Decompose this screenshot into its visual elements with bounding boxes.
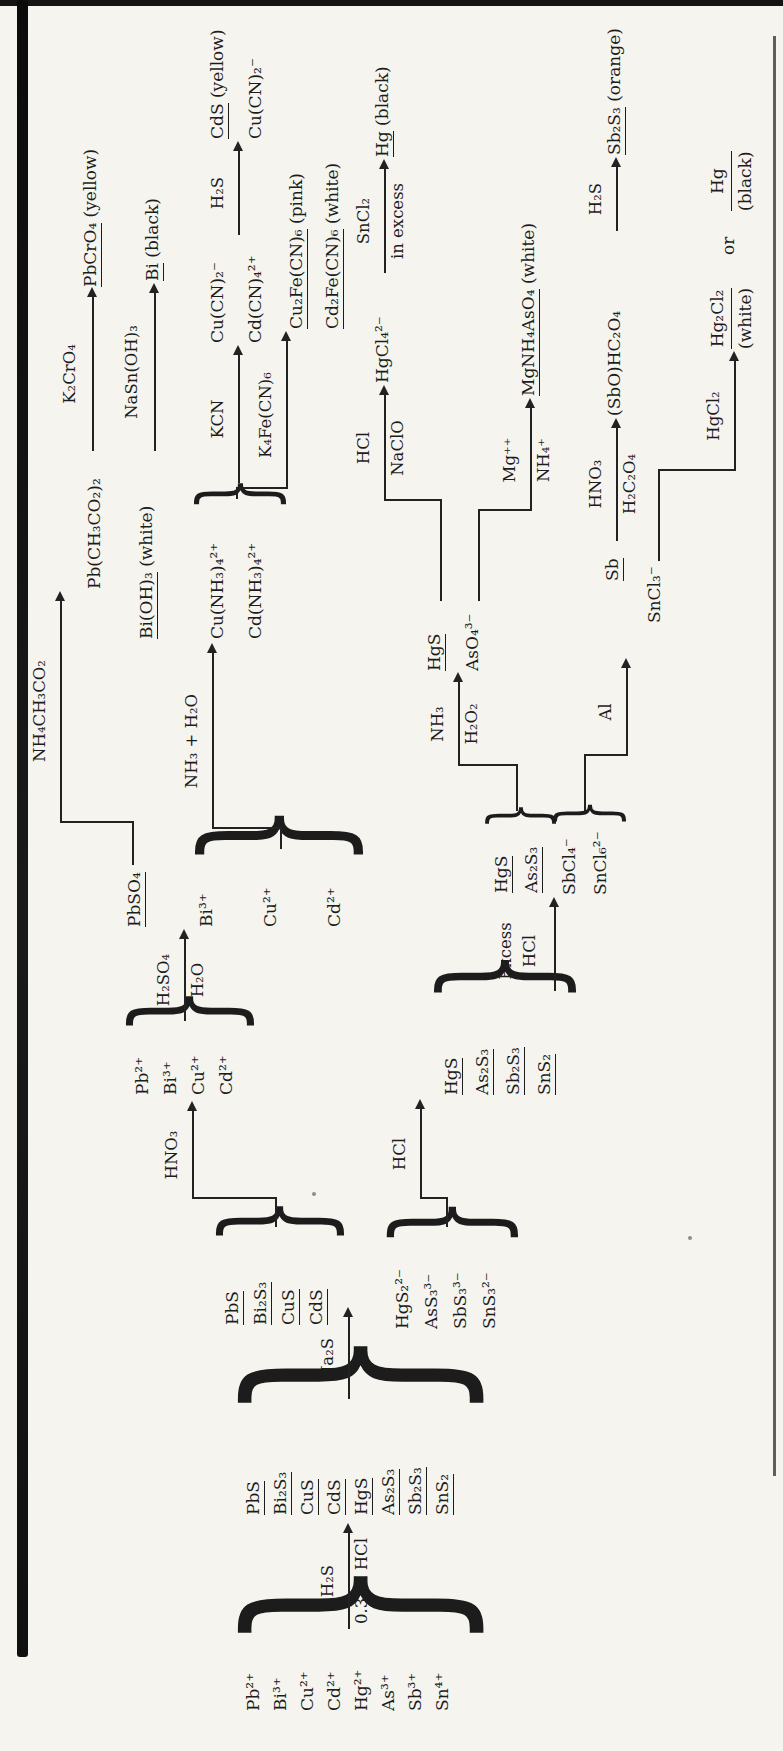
scanned-page: Pb²⁺ Bi³⁺ Cu²⁺ Cd²⁺ Hg²⁺ As³⁺ Sb³⁺ Sn⁴⁺ … xyxy=(0,0,783,1751)
node-hg2cl2: Hg₂Cl₂ (white) xyxy=(704,288,758,349)
formula: As³⁺ xyxy=(375,1670,402,1712)
connector xyxy=(446,1199,448,1227)
formula: HgS xyxy=(491,856,513,893)
stack-ammine: Cu(NH₃)₄²⁺ Cd(NH₃)₄²⁺ xyxy=(198,543,274,639)
arrow-nh3h2o2-label-below: H₂O₂ xyxy=(462,703,481,744)
color-note: (white) xyxy=(136,506,156,567)
arrow-hclnaclo-label-below: NaClO xyxy=(388,420,407,476)
arrow-mg-head xyxy=(525,398,535,408)
node-pbcro4: PbCrO₄ (yellow) xyxy=(80,149,100,287)
arrow-nh3h2o2-label-above: NH₃ xyxy=(428,706,447,741)
arrow-al-head xyxy=(621,658,631,668)
color-note: (yellow) xyxy=(80,149,100,218)
color-note: (yellow) xyxy=(207,29,227,98)
arrow-hcl-line xyxy=(420,1109,422,1199)
formula: Bi₂S₃ xyxy=(270,1472,292,1515)
connector xyxy=(280,829,282,849)
arrow-nh3h2o2-head xyxy=(453,672,463,682)
formula: Sb xyxy=(602,558,624,581)
color-note: (black) xyxy=(372,66,392,126)
arrow-hclnaclo-label-above: HCl xyxy=(354,432,373,464)
formula: Sb₂S₃ xyxy=(604,107,626,155)
arrow-kcn-line xyxy=(238,355,240,483)
arrow-hclnaclo-line xyxy=(384,395,386,501)
arrow-hcl-label: HCl xyxy=(390,1138,409,1170)
formula: Cu(CN)₂⁻ xyxy=(198,255,236,343)
arrow-nh4ac-line xyxy=(60,601,62,823)
arrow-hcl-head xyxy=(415,1099,425,1109)
formula: SnS₂ xyxy=(432,1474,454,1515)
formula: Bi³⁺ xyxy=(267,1670,294,1712)
stack-cds-result: CdS (yellow) Cu(CN)₂⁻ xyxy=(198,29,274,139)
arrow-excess-hcl-label-1: Excess xyxy=(496,922,515,979)
arrow-nh3h2o2-line xyxy=(458,682,460,766)
or-label: or xyxy=(718,237,738,255)
arrow-al-line xyxy=(626,668,628,756)
arrow-hno3-line xyxy=(192,1111,194,1199)
arrow-h2so4-head xyxy=(179,929,189,939)
connector xyxy=(420,1197,448,1199)
node-sncl3: SnCl₃⁻ xyxy=(644,566,664,623)
formula: Cd²⁺ xyxy=(321,1670,348,1712)
node-pbso4: PbSO₄ xyxy=(124,872,144,927)
formula: SnS₃²⁻ xyxy=(475,1269,504,1329)
formula: Bi(OH)₃ xyxy=(136,572,158,639)
formula: Bi₂S₃ xyxy=(250,1282,272,1325)
node-hgs: HgS xyxy=(424,634,444,671)
arrow-excess-hcl-head xyxy=(549,897,559,907)
formula: Sb₂S₃ xyxy=(405,1467,427,1515)
arrow-hclnaclo-head xyxy=(379,385,389,395)
formula: SnS₂ xyxy=(534,1054,556,1095)
connector xyxy=(132,823,134,865)
formula: CuS xyxy=(278,1289,300,1325)
formula: CdS xyxy=(306,1289,328,1325)
brace: } xyxy=(554,799,618,827)
formula: Cu₂Fe(CN)₆ xyxy=(286,229,308,329)
formula: HgS xyxy=(441,1058,463,1095)
connector xyxy=(275,1199,277,1227)
arrow-sncl2-head xyxy=(379,159,389,169)
connector xyxy=(516,766,518,811)
arrow-stannite-line xyxy=(154,293,156,451)
formula: Bi xyxy=(142,263,164,281)
formula: PbCrO₄ xyxy=(80,223,102,287)
connector xyxy=(584,756,586,811)
formula: As₂S₃ xyxy=(521,847,543,893)
formula: Hg₂Cl₂ xyxy=(704,288,732,349)
connector xyxy=(236,489,238,499)
arrow-mg-label-below: NH₄⁺ xyxy=(534,438,553,482)
node-pb-acetate: Pb(CH₃CO₂)₂ xyxy=(84,478,104,589)
formula: Hg²⁺ xyxy=(348,1670,375,1712)
stack-thio-ions: HgS₂²⁻ AsS₃³⁻ SbS₃³⁻ SnS₃²⁻ xyxy=(388,1269,504,1329)
arrow-h2so4-label-above: H₂SO₄ xyxy=(154,954,173,1006)
arrow-na2s-line xyxy=(348,1317,350,1399)
arrow-h2so4-line xyxy=(184,939,186,1021)
formula: SbCl₄⁻ xyxy=(554,831,585,895)
connector xyxy=(60,821,134,823)
color-note: (black) xyxy=(142,198,162,258)
color-note: (black) xyxy=(732,151,758,211)
formula: Bi³⁺ xyxy=(156,1055,184,1095)
formula: Pb²⁺ xyxy=(128,1055,156,1095)
stack-sulfides: PbS Bi₂S₃ CuS CdS HgS As₂S₃ Sb₂S₃ SnS₂ xyxy=(240,1467,456,1515)
formula: Cd(CN)₄²⁺ xyxy=(236,255,274,343)
stack-cyanide: Cu(CN)₂⁻ Cd(CN)₄²⁺ xyxy=(198,255,274,343)
color-note: (orange) xyxy=(604,28,624,102)
arrow-mg-label-above: Mg⁺⁺ xyxy=(500,438,519,483)
formula: Cd(NH₃)₄²⁺ xyxy=(236,543,274,639)
stack-start-ions: Pb²⁺ Bi³⁺ Cu²⁺ Cd²⁺ Hg²⁺ As³⁺ Sb³⁺ Sn⁴⁺ xyxy=(240,1670,456,1712)
stack-hgs-as2s3: HgS As₂S₃ xyxy=(486,847,546,893)
node-sb: Sb xyxy=(602,558,622,581)
node-bi-metal: Bi (black) xyxy=(142,198,162,281)
formula: AsS₃³⁻ xyxy=(417,1269,446,1329)
arrow-hno3ox-line xyxy=(616,428,618,541)
arrow-hno3-label: HNO₃ xyxy=(162,1131,181,1180)
arrow-k2cro4-label: K₂CrO₄ xyxy=(60,344,79,404)
arrow-sncl2-line xyxy=(384,169,386,273)
node-bioh3: Bi(OH)₃ (white) xyxy=(136,506,156,639)
formula: PbSO₄ xyxy=(124,872,146,927)
arrow-stannite-label: NaSn(OH)₃ xyxy=(122,325,141,419)
arrow-ferro-head xyxy=(281,331,291,341)
arrow-mg-line xyxy=(530,408,532,511)
arrow-hno3ox-label-below: H₂C₂O₄ xyxy=(620,454,639,514)
